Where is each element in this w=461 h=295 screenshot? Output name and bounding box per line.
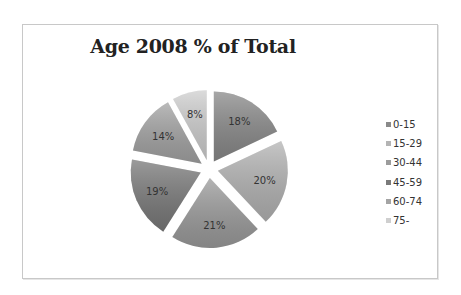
legend-swatch-icon (386, 160, 391, 165)
slice-label: 14% (152, 131, 174, 142)
pie-slices: 18%20%21%19%14%8% (131, 90, 288, 248)
pie-chart: 18%20%21%19%14%8% (23, 25, 437, 278)
legend-swatch-icon (386, 199, 391, 204)
legend-item: 60-74 (386, 192, 422, 211)
legend-item: 75- (386, 211, 422, 230)
legend-label: 30-44 (393, 157, 422, 168)
legend-label: 75- (393, 215, 409, 226)
legend-label: 15-29 (393, 138, 422, 149)
slice-label: 19% (146, 186, 168, 197)
slice-label: 20% (253, 175, 275, 186)
legend-label: 0-15 (393, 119, 416, 130)
legend-item: 30-44 (386, 153, 422, 172)
legend-swatch-icon (386, 122, 391, 127)
legend-item: 0-15 (386, 115, 422, 134)
slice-label: 18% (228, 116, 250, 127)
legend: 0-15 15-29 30-44 45-59 60-74 75- (386, 115, 422, 230)
legend-swatch-icon (386, 180, 391, 185)
legend-item: 15-29 (386, 134, 422, 153)
legend-label: 45-59 (393, 177, 422, 188)
chart-area: Age 2008 % of Total 18%20%21%19%14%8% 0-… (22, 24, 438, 279)
slice-label: 8% (187, 109, 203, 120)
slice-label: 21% (203, 220, 225, 231)
legend-swatch-icon (386, 218, 391, 223)
legend-swatch-icon (386, 141, 391, 146)
legend-item: 45-59 (386, 173, 422, 192)
legend-label: 60-74 (393, 196, 422, 207)
